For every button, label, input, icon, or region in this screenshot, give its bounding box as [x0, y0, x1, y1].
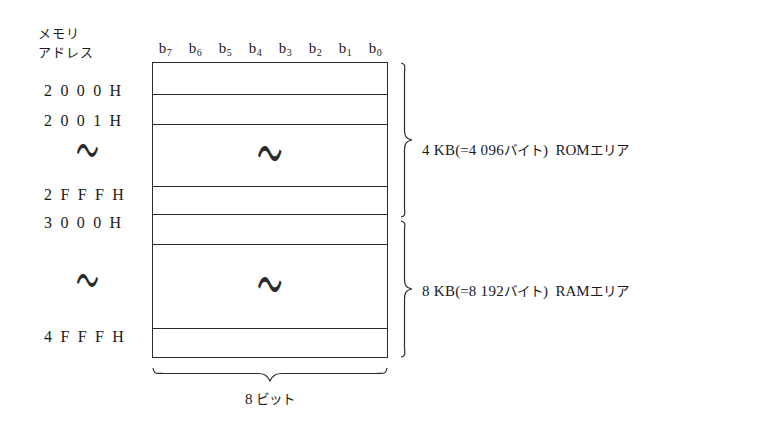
bit-label-b6: b6 [182, 40, 208, 57]
rom-area-name: ROM [556, 142, 590, 158]
rom-bytes-unit: バイト [504, 142, 543, 158]
address-column-header: メモリ アドレス [38, 24, 94, 62]
address-label-2fffh: 2 F F F H [44, 186, 144, 204]
memory-map-diagram: メモリ アドレス b7 b6 b5 b4 b3 b2 b1 b0 2 0 0 0… [0, 0, 757, 437]
memory-row-rom-continuation: 〜 [153, 125, 387, 187]
bit-width-unit: ビット [256, 391, 295, 407]
ram-paren-open: (= [455, 283, 468, 299]
ram-area-unit: エリア [590, 283, 629, 299]
rom-region-brace [398, 62, 414, 218]
row-continuation-icon: 〜 [153, 272, 387, 302]
memory-row-2fffh [153, 187, 387, 215]
ram-bytes-value: 8 192 [469, 283, 504, 299]
bit-label-row: b7 b6 b5 b4 b3 b2 b1 b0 [152, 40, 388, 57]
ram-bytes-unit: バイト [504, 283, 543, 299]
rom-region-label: 4 KB(=4 096バイト) ROMエリア [422, 139, 629, 159]
address-label-4fffh: 4 F F F H [44, 328, 144, 346]
address-label-3000h: 3 0 0 0 H [44, 214, 144, 232]
address-column-header-line2: アドレス [38, 43, 94, 62]
ram-region-label: 8 KB(=8 192バイト) RAMエリア [422, 280, 629, 300]
memory-row-4fffh [153, 329, 387, 357]
ram-paren-close: ) [543, 283, 548, 299]
rom-paren-open: (= [455, 142, 468, 158]
address-continuation-ram: 〜 [74, 270, 101, 297]
row-continuation-icon: 〜 [153, 141, 387, 171]
memory-row-3000h [153, 215, 387, 245]
bit-label-b0: b0 [362, 40, 388, 57]
rom-bytes-value: 4 096 [469, 142, 504, 158]
rom-area-unit: エリア [590, 142, 629, 158]
memory-row-2001h [153, 95, 387, 125]
address-label-2000h: 2 0 0 0 H [44, 82, 144, 100]
address-continuation-rom: 〜 [74, 140, 101, 167]
rom-size-value: 4 KB [422, 142, 455, 158]
bit-width-label: 8 ビット [152, 388, 388, 408]
bit-label-b1: b1 [332, 40, 358, 57]
bit-label-b2: b2 [302, 40, 328, 57]
memory-cell-table: 〜 〜 [152, 62, 388, 358]
bit-width-value: 8 [245, 391, 253, 407]
memory-row-2000h [153, 63, 387, 95]
memory-row-ram-continuation: 〜 [153, 245, 387, 329]
ram-size-value: 8 KB [422, 283, 455, 299]
bit-width-brace [152, 366, 388, 382]
rom-paren-close: ) [543, 142, 548, 158]
ram-area-name: RAM [556, 283, 590, 299]
bit-label-b3: b3 [272, 40, 298, 57]
address-column-header-line1: メモリ [38, 24, 94, 43]
bit-label-b4: b4 [242, 40, 268, 57]
bit-label-b7: b7 [152, 40, 178, 57]
bit-label-b5: b5 [212, 40, 238, 57]
ram-region-brace [398, 220, 414, 358]
